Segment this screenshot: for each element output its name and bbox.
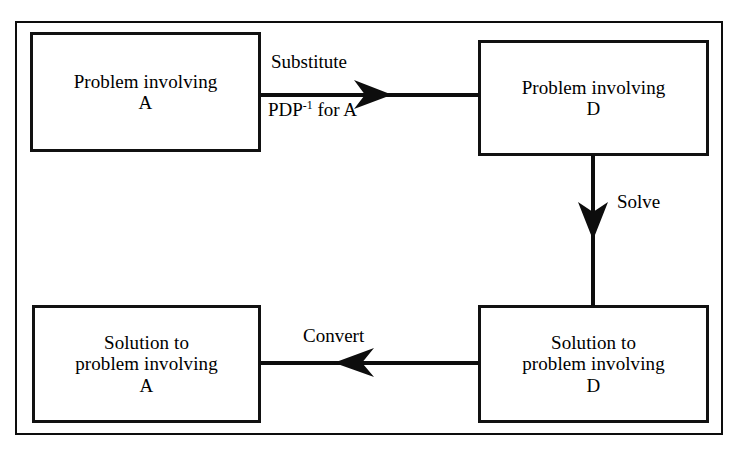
node-solution-a-line-1: Solution to	[104, 332, 189, 353]
node-solution-to-problem-involving-d: Solution to problem involving D	[478, 305, 709, 423]
edge-label-substitute: Substitute	[271, 52, 347, 73]
node-solution-a-line-2: problem involving	[75, 353, 218, 374]
edge-label-substitute-formula: PDP-1 for A	[268, 100, 357, 121]
node-solution-to-problem-involving-a: Solution to problem involving A	[32, 305, 261, 423]
node-problem-d-line-2: D	[587, 98, 601, 119]
edge-label-convert: Convert	[303, 326, 364, 347]
edge-label-substitute-formula-suffix: for A	[313, 99, 357, 120]
node-problem-involving-d: Problem involving D	[478, 40, 709, 156]
arrow-down-icon	[574, 200, 612, 242]
edge-label-substitute-formula-base: PDP	[268, 99, 303, 120]
node-problem-d-line-1: Problem involving	[522, 77, 666, 98]
edge-label-substitute-formula-exponent: -1	[303, 99, 313, 112]
node-solution-d-line-1: Solution to	[551, 332, 636, 353]
node-problem-a-line-2: A	[139, 92, 153, 113]
node-solution-d-line-2: problem involving	[522, 353, 665, 374]
node-solution-a-line-3: A	[140, 375, 154, 396]
node-problem-involving-a: Problem involving A	[30, 32, 261, 152]
diagram-canvas: Problem involving A Problem involving D …	[0, 0, 737, 454]
edge-label-solve: Solve	[617, 192, 660, 213]
node-solution-d-line-3: D	[587, 375, 601, 396]
node-problem-a-line-1: Problem involving	[74, 71, 218, 92]
arrow-left-icon	[332, 344, 376, 382]
arrow-right-icon	[352, 76, 394, 114]
